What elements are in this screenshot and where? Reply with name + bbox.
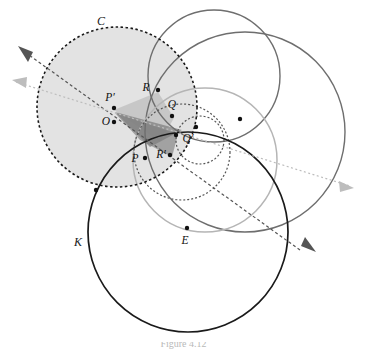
arrowhead-right-light	[339, 181, 354, 192]
circle-K-label: K	[73, 235, 83, 249]
point-P-prime-dot	[112, 106, 116, 110]
point-R-dot	[156, 88, 160, 92]
point-unlabeled-on-K-left-dot	[94, 188, 98, 192]
point-E-label: E	[180, 234, 188, 246]
point-P-dot	[143, 156, 147, 160]
point-Q-dot	[170, 114, 174, 118]
circle-C-label: C	[97, 14, 106, 28]
point-E-dot	[185, 226, 189, 230]
arrowhead-mid-left	[12, 77, 27, 88]
point-unlabeled-center-dot	[194, 125, 198, 129]
point-R-label: R	[141, 81, 149, 93]
point-P-prime-label: P′	[104, 91, 115, 103]
figure-root: P′ORQQ′R′PE CK Figure 4.12	[0, 0, 367, 350]
point-unlabeled-upper-right-dot	[238, 117, 242, 121]
point-Q-prime-dot	[174, 133, 178, 137]
point-P-label: P	[130, 152, 138, 164]
arrowhead-upper-left	[18, 46, 33, 62]
point-R-prime-label: R′	[155, 148, 166, 160]
point-Q-prime-label: Q′	[183, 132, 194, 144]
point-O-label: O	[102, 115, 111, 127]
point-R-prime-dot	[168, 153, 172, 157]
point-Q-label: Q	[168, 98, 177, 110]
arrowhead-lower-right	[301, 237, 316, 252]
geometry-diagram-canvas: P′ORQQ′R′PE CK	[0, 0, 367, 350]
point-O-dot	[112, 120, 116, 124]
